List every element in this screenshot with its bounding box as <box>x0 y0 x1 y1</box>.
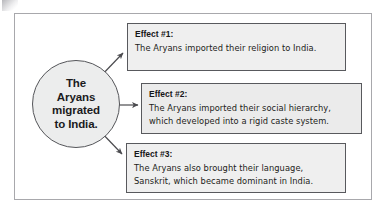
scan-artifact <box>2 0 18 11</box>
effect-3-body: The Aryans also brought their language, … <box>134 162 338 187</box>
effect-1-body: The Aryans imported their religion to In… <box>135 42 338 55</box>
cause-label: The Aryans migrated to India. <box>52 77 100 131</box>
effect-1-heading: Effect #1: <box>135 29 338 40</box>
effect-2-heading: Effect #2: <box>149 89 354 100</box>
effect-box-2[interactable]: Effect #2: The Aryans imported their soc… <box>141 83 362 134</box>
cause-node[interactable]: The Aryans migrated to India. <box>32 60 120 148</box>
diagram-root: The Aryans migrated to India. Effect #1:… <box>0 0 389 215</box>
effect-2-body: The Aryans imported their social hierarc… <box>149 102 354 127</box>
effect-box-1[interactable]: Effect #1: The Aryans imported their rel… <box>127 23 346 71</box>
effect-box-3[interactable]: Effect #3: The Aryans also brought their… <box>126 143 346 193</box>
effect-3-heading: Effect #3: <box>134 149 338 160</box>
